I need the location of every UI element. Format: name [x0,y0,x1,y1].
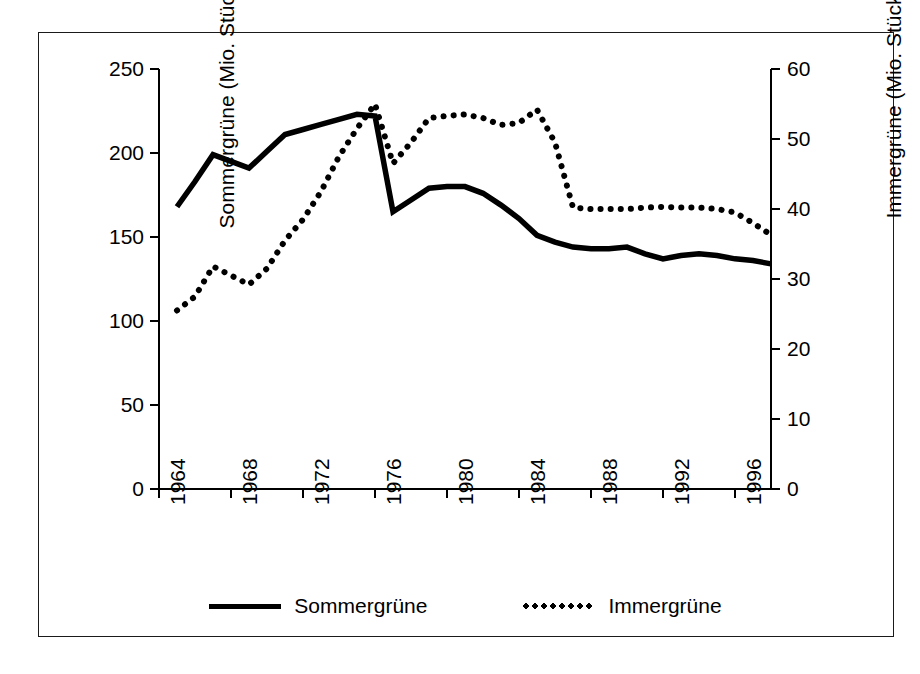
y-tick-label-left: 150 [109,226,144,247]
dotted-line-swatch-icon [523,603,595,609]
y-tick-label-right: 50 [787,128,810,149]
y-axis-left-title: Sommergrüne (Mio. Stück) [212,0,242,313]
legend-item-sommergruene: Sommergrüne [209,594,427,618]
x-tick-label: 1988 [599,458,620,505]
chart-legend: Sommergrüne Immergrüne [39,586,892,626]
legend-label: Sommergrüne [294,594,427,618]
y-tick-label-right: 10 [787,408,810,429]
x-tick-label: 1964 [167,458,188,505]
y-tick-label-right: 40 [787,198,810,219]
legend-item-immergruene: Immergrüne [523,594,721,618]
y-tick-label-right: 30 [787,268,810,289]
line-chart-plot [39,33,892,635]
series-line-sommergrüne [177,114,771,264]
y-tick-label-left: 100 [109,310,144,331]
y-tick-label-right: 0 [787,478,799,499]
x-tick-label: 1980 [455,458,476,505]
legend-label: Immergrüne [608,594,721,618]
x-tick-label: 1968 [239,458,260,505]
y-tick-label-left: 0 [132,478,144,499]
series-line-immergrüne [177,104,771,311]
y-tick-label-left: 200 [109,142,144,163]
y-tick-label-left: 250 [109,58,144,79]
y-tick-label-left: 50 [121,394,144,415]
figure: Sommergrüne (Mio. Stück) Immergrüne (Mio… [0,0,920,674]
y-tick-label-right: 60 [787,58,810,79]
x-tick-label: 1972 [311,458,332,505]
y-axis-right-title: Immergrüne (Mio. Stück) [879,0,909,313]
solid-line-swatch-icon [209,604,281,609]
y-tick-label-right: 20 [787,338,810,359]
series-group [177,104,771,311]
x-tick-label: 1996 [743,458,764,505]
x-tick-label: 1984 [527,458,548,505]
chart-frame: Sommergrüne (Mio. Stück) Immergrüne (Mio… [38,32,894,637]
x-tick-label: 1976 [383,458,404,505]
x-tick-label: 1992 [671,458,692,505]
